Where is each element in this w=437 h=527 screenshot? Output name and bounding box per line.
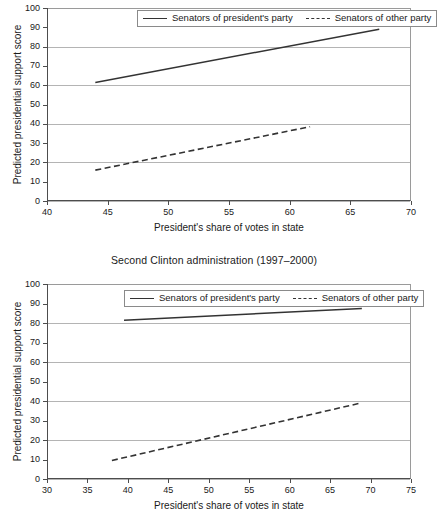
legend-label: Senators of other party	[322, 293, 419, 303]
ytick-mark-30	[43, 421, 47, 422]
legend-swatch-bar	[130, 298, 154, 299]
xaxis-title-bottom: President's share of votes in state	[47, 500, 411, 511]
ytick-mark-10	[43, 460, 47, 461]
xtick-label-30: 30	[42, 486, 52, 495]
ytick-mark-30	[43, 143, 47, 144]
xtick-mark-60	[290, 201, 291, 205]
ytick-mark-90	[43, 27, 47, 28]
legend-label: Senators of president's party	[159, 293, 280, 303]
series-line-other-party	[112, 403, 360, 460]
legend-bottom: Senators of president's partySenators of…	[124, 290, 424, 307]
dashed-line-swatch	[306, 15, 330, 22]
legend-entry-presidents-party: Senators of president's party	[130, 293, 280, 303]
xtick-mark-45	[108, 201, 109, 205]
xtick-mark-65	[350, 201, 351, 205]
xtick-label-55: 55	[244, 486, 254, 495]
xtick-label-70: 70	[366, 486, 376, 495]
legend-top: Senators of president's partySenators of…	[137, 10, 437, 27]
legend-label: Senators of president's party	[172, 13, 293, 23]
legend-swatch-bar	[306, 18, 330, 19]
xtick-mark-75	[411, 479, 412, 483]
yaxis-title-top: Predicted presidential support score	[12, 8, 23, 201]
xtick-mark-65	[330, 479, 331, 483]
legend-entry-other-party: Senators of other party	[293, 293, 419, 303]
chart-panel-bottom: Second Clinton administration (1997–2000…	[0, 252, 428, 527]
xtick-mark-50	[209, 479, 210, 483]
ytick-mark-80	[43, 323, 47, 324]
series-layer-top	[48, 8, 412, 201]
ytick-mark-50	[43, 382, 47, 383]
yaxis-title-bottom: Predicted presidential support score	[12, 284, 23, 479]
ytick-mark-100	[43, 284, 47, 285]
solid-line-swatch	[130, 295, 154, 302]
xtick-label-45: 45	[103, 208, 113, 217]
plot-area-bottom	[47, 284, 411, 479]
xtick-label-40: 40	[123, 486, 133, 495]
xtick-label-35: 35	[82, 486, 92, 495]
ytick-mark-20	[43, 440, 47, 441]
xtick-label-60: 60	[285, 486, 295, 495]
xtick-label-65: 65	[325, 486, 335, 495]
legend-entry-other-party: Senators of other party	[306, 13, 432, 23]
xtick-mark-55	[229, 201, 230, 205]
series-line-presidents-party	[124, 308, 362, 320]
xtick-mark-35	[87, 479, 88, 483]
xtick-label-70: 70	[406, 208, 416, 217]
solid-line-swatch	[143, 15, 167, 22]
xtick-label-50: 50	[163, 208, 173, 217]
xtick-mark-30	[47, 479, 48, 483]
gridline-y-0	[48, 479, 410, 480]
ytick-mark-20	[43, 162, 47, 163]
series-line-other-party	[95, 127, 310, 170]
dashed-line-swatch	[293, 295, 317, 302]
xtick-mark-45	[168, 479, 169, 483]
xaxis-title-top: President's share of votes in state	[47, 222, 411, 233]
series-layer-bottom	[48, 284, 412, 479]
legend-swatch-bar	[143, 18, 167, 19]
xtick-label-60: 60	[285, 208, 295, 217]
ytick-mark-70	[43, 66, 47, 67]
ytick-mark-10	[43, 182, 47, 183]
xtick-label-40: 40	[42, 208, 52, 217]
xtick-label-75: 75	[406, 486, 416, 495]
xtick-mark-40	[128, 479, 129, 483]
xtick-mark-50	[168, 201, 169, 205]
ytick-mark-90	[43, 304, 47, 305]
chart-panel-top: 010203040506070809010040455055606570Pres…	[0, 0, 428, 232]
ytick-mark-50	[43, 105, 47, 106]
series-line-presidents-party	[95, 29, 379, 82]
ytick-mark-60	[43, 85, 47, 86]
xtick-label-45: 45	[163, 486, 173, 495]
ytick-mark-40	[43, 401, 47, 402]
xtick-label-65: 65	[345, 208, 355, 217]
ytick-mark-70	[43, 343, 47, 344]
plot-wrap-bottom: 0102030405060708090100303540455055606570…	[0, 252, 428, 519]
xtick-mark-70	[411, 201, 412, 205]
xtick-mark-55	[249, 479, 250, 483]
plot-wrap-top: 010203040506070809010040455055606570Pres…	[0, 0, 428, 241]
ytick-mark-80	[43, 47, 47, 48]
ytick-mark-100	[43, 8, 47, 9]
legend-swatch-bar	[293, 298, 317, 299]
legend-label: Senators of other party	[335, 13, 432, 23]
xtick-label-55: 55	[224, 208, 234, 217]
plot-area-top	[47, 8, 411, 201]
xtick-mark-70	[371, 479, 372, 483]
xtick-label-50: 50	[204, 486, 214, 495]
ytick-mark-60	[43, 362, 47, 363]
xtick-mark-40	[47, 201, 48, 205]
xtick-mark-60	[290, 479, 291, 483]
ytick-mark-40	[43, 124, 47, 125]
legend-entry-presidents-party: Senators of president's party	[143, 13, 293, 23]
